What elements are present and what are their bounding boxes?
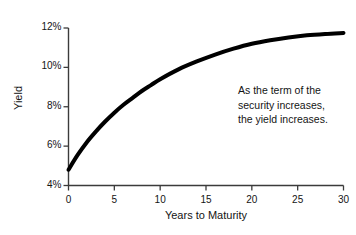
y-axis-title: Yield — [12, 68, 24, 128]
y-tick-marks — [64, 28, 69, 186]
chart-annotation: As the term of the security increases, t… — [238, 83, 350, 127]
annotation-line-3: the yield increases. — [238, 112, 350, 127]
annotation-line-1: As the term of the — [238, 83, 350, 98]
x-tick-label: 15 — [191, 194, 221, 205]
x-tick-label: 30 — [329, 194, 356, 205]
x-tick-label: 25 — [283, 194, 313, 205]
x-tick-label: 0 — [54, 194, 84, 205]
x-tick-marks — [69, 186, 344, 191]
y-tick-label: 10% — [28, 60, 62, 71]
x-tick-label: 20 — [237, 194, 267, 205]
y-tick-label: 12% — [28, 21, 62, 32]
y-tick-label: 4% — [28, 179, 62, 190]
yield-curve-chart: 4%6%8%10%12% 051015202530 Yield Years to… — [0, 0, 356, 235]
x-tick-label: 10 — [145, 194, 175, 205]
annotation-line-2: security increases, — [238, 98, 350, 113]
x-tick-label: 5 — [99, 194, 129, 205]
y-tick-label: 8% — [28, 100, 62, 111]
y-tick-label: 6% — [28, 139, 62, 150]
x-axis-title: Years to Maturity — [68, 209, 344, 221]
